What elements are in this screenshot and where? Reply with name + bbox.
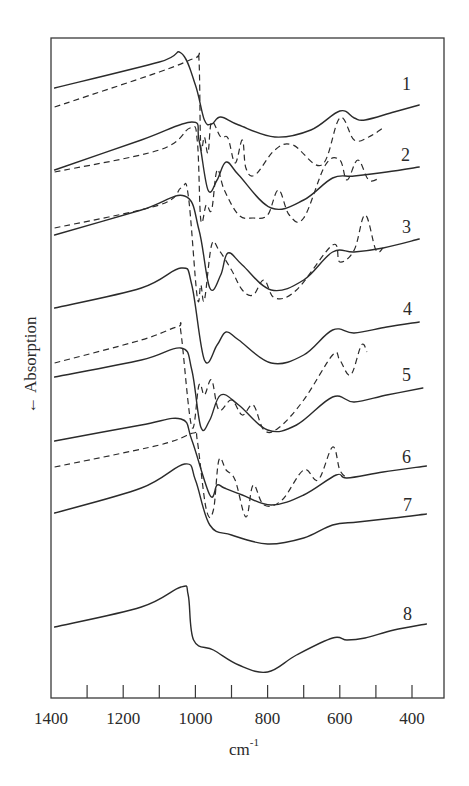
plot-frame — [51, 38, 444, 698]
x-axis-unit-exponent: -1 — [250, 736, 259, 748]
spectrum-5-solid — [55, 348, 423, 432]
trace-label-6: 6 — [402, 448, 411, 466]
spectrum-2-solid — [55, 122, 420, 209]
trace-label-3: 3 — [402, 218, 411, 236]
spectra-traces — [55, 52, 427, 673]
trace-label-2: 2 — [401, 146, 410, 164]
x-tick-label: 600 — [327, 709, 353, 729]
spectrum-4-solid — [55, 268, 420, 364]
spectrum-2-dashed — [55, 127, 380, 223]
spectrum-6-solid — [55, 418, 427, 505]
trace-label-1: 1 — [402, 75, 411, 93]
x-tick-label: 1200 — [106, 709, 140, 729]
x-axis-ticks — [87, 685, 412, 698]
plot-canvas — [0, 0, 469, 786]
x-tick-label: 1000 — [178, 709, 212, 729]
x-axis-label: cm-1 — [229, 738, 259, 760]
spectrum-3-solid — [55, 195, 420, 290]
x-axis-unit: cm — [229, 740, 250, 759]
spectrum-5-dashed — [55, 323, 367, 433]
trace-label-5: 5 — [402, 366, 411, 384]
x-tick-label: 800 — [255, 709, 281, 729]
arrow-left-icon: ← — [21, 396, 40, 413]
spectrum-1-solid — [55, 52, 420, 137]
y-axis-label-text: Absorption — [21, 317, 40, 394]
spectrum-3-dashed — [55, 183, 384, 302]
y-axis-label: ← Absorption — [21, 317, 41, 414]
trace-label-4: 4 — [403, 300, 412, 318]
spectrum-7-solid — [55, 464, 427, 544]
trace-label-7: 7 — [403, 496, 412, 514]
spectrum-8-solid — [55, 586, 427, 672]
trace-label-8: 8 — [403, 605, 412, 623]
x-tick-label: 400 — [399, 709, 425, 729]
spectrum-6-dashed — [55, 431, 347, 518]
x-tick-label: 1400 — [34, 709, 68, 729]
